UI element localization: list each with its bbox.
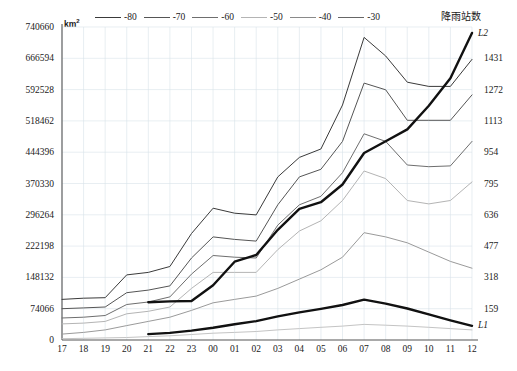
series-path-neg60 xyxy=(62,134,472,318)
chart-container: -80 -70 -60 -50 -40 -30 km2 降雨站数 7406606… xyxy=(0,0,517,371)
plot-area xyxy=(0,0,517,371)
series-path-neg80 xyxy=(62,37,472,299)
series-label-l1: L1 xyxy=(478,320,488,330)
series-path-l2 xyxy=(148,33,472,302)
series-path-neg50 xyxy=(62,171,472,324)
series-label-l2: L2 xyxy=(478,28,488,38)
series-path-l1 xyxy=(148,300,472,335)
